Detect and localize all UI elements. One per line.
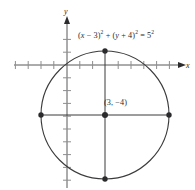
x-axis-arrow <box>178 62 186 68</box>
circle-graph-figure: x y (x − 3)2 + (y + 4)2 = 52 (3, −4) <box>0 0 195 190</box>
x-axis-group <box>14 61 186 69</box>
x-axis-label: x <box>185 61 190 70</box>
y-axis-label: y <box>63 7 68 16</box>
point-left <box>38 112 43 117</box>
point-right <box>166 112 171 117</box>
point-center <box>102 112 108 118</box>
equation-label: (x − 3)2 + (y + 4)2 = 52 <box>78 31 154 40</box>
y-axis-arrow <box>64 16 70 24</box>
point-bottom <box>102 176 107 181</box>
coordinate-plane-svg: x y <box>0 0 195 190</box>
point-top <box>102 48 107 53</box>
center-point-label: (3, −4) <box>104 98 127 107</box>
y-axis-group <box>63 16 71 188</box>
